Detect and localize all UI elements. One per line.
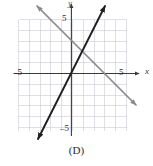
y-axis-label: y [68,0,72,8]
coordinate-plane-figure [0,0,153,166]
figure-background [0,0,153,166]
y-axis-tick-label-negative-5: –5 [60,124,69,133]
y-axis-tick-label-positive-5: 5 [62,14,67,23]
answer-choice-label: (D) [0,144,153,156]
x-axis-tick-label-negative-5: –5 [13,68,22,77]
x-axis-tick-label-positive-5: 5 [119,68,124,77]
x-axis-label: x [145,67,149,76]
